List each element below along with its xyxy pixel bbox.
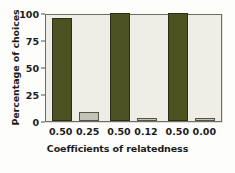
y-tick-label: 75 [17, 36, 39, 47]
plot-area [45, 14, 222, 122]
y-tick-label: 50 [17, 63, 39, 74]
bar [137, 118, 157, 121]
x-tick-label: 0.50 [49, 126, 72, 137]
bar [195, 118, 215, 121]
y-tick-mark [41, 95, 45, 96]
x-tick-label: 0.00 [193, 126, 216, 137]
bar-chart-figure: Percentage of choices 0255075100 0.500.2… [0, 0, 235, 173]
y-tick-mark [41, 68, 45, 69]
x-axis-tick-labels: 0.500.250.500.120.500.00 [45, 126, 222, 140]
x-axis-title: Coefficients of relatedness [0, 143, 235, 154]
bar [79, 112, 99, 121]
y-tick-label: 100 [17, 9, 39, 20]
x-tick-label: 0.50 [107, 126, 130, 137]
y-tick-mark [41, 14, 45, 15]
bar [110, 13, 130, 121]
bar [168, 13, 188, 121]
y-tick-mark [41, 41, 45, 42]
y-tick-mark [41, 122, 45, 123]
x-tick-label: 0.12 [134, 126, 157, 137]
bars-container [46, 15, 221, 121]
x-tick-label: 0.25 [76, 126, 99, 137]
y-tick-label: 0 [17, 117, 39, 128]
x-tick-label: 0.50 [166, 126, 189, 137]
bar [52, 18, 72, 121]
y-tick-label: 25 [17, 90, 39, 101]
